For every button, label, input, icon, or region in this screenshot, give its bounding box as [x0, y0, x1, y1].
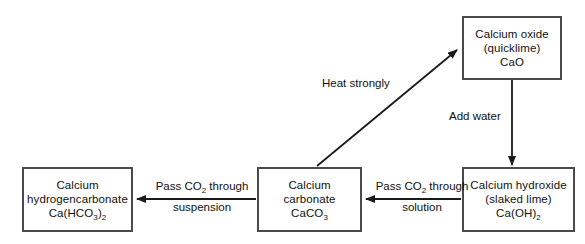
edge-label-pass-co2-solution: Pass CO2 through solution — [370, 179, 474, 214]
edge-label-pass-co2-suspension-bottom: suspension — [150, 200, 254, 214]
node-calcium-hydrogencarbonate: Calcium hydrogencarbonate Ca(HCO3)2 — [22, 167, 133, 232]
node-calcium-oxide-name: Calcium oxide — [475, 27, 549, 41]
node-calcium-carbonate-formula: CaCO3 — [291, 206, 328, 222]
chemistry-flow-diagram: Calcium oxide (quicklime) CaO Calcium hy… — [0, 0, 585, 244]
edge-label-add-water: Add water — [449, 109, 501, 123]
node-calcium-oxide-formula: CaO — [500, 55, 524, 69]
edge-label-heat-strongly-text: Heat strongly — [322, 76, 390, 90]
edge-label-add-water-text: Add water — [449, 109, 501, 123]
node-calcium-hydrogencarbonate-name-line2: hydrogencarbonate — [27, 192, 128, 206]
edge-label-pass-co2-suspension: Pass CO2 through suspension — [150, 179, 254, 214]
node-calcium-oxide: Calcium oxide (quicklime) CaO — [462, 16, 562, 80]
node-calcium-carbonate-name-line1: Calcium — [288, 178, 330, 192]
arrow-heat-strongly — [317, 50, 457, 166]
node-calcium-carbonate-name-line2: carbonate — [283, 192, 335, 206]
node-calcium-hydroxide-alias: (slaked lime) — [485, 192, 551, 206]
edge-label-heat-strongly: Heat strongly — [322, 76, 390, 90]
node-calcium-hydrogencarbonate-name-line1: Calcium — [56, 178, 98, 192]
edge-label-pass-co2-solution-bottom: solution — [370, 200, 474, 214]
edge-label-pass-co2-suspension-top: Pass CO2 through — [150, 179, 254, 195]
node-calcium-hydrogencarbonate-formula: Ca(HCO3)2 — [49, 206, 107, 222]
node-calcium-carbonate: Calcium carbonate CaCO3 — [257, 167, 362, 232]
node-calcium-hydroxide-formula: Ca(OH)2 — [496, 206, 541, 222]
node-calcium-hydroxide: Calcium hydroxide (slaked lime) Ca(OH)2 — [462, 167, 575, 232]
node-calcium-hydroxide-name: Calcium hydroxide — [470, 178, 566, 192]
edge-label-pass-co2-solution-top: Pass CO2 through — [370, 179, 474, 195]
node-calcium-oxide-alias: (quicklime) — [484, 41, 541, 55]
